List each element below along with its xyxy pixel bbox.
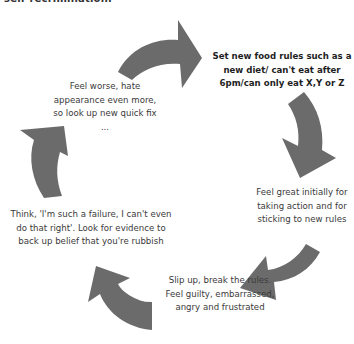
cycle-step-feel-great: Feel great initially for taking action a… [248,186,354,227]
cycle-step-feel-worse: Feel worse, hate appearance even more, s… [50,80,160,134]
curved-arrow-icon [88,266,152,330]
curved-arrow-icon [282,92,336,178]
cycle-step-think-failure: Think, 'I'm such a failure, I can't even… [6,208,176,249]
cycle-step-set-food-rules: Set new food rules such as a new diet/ c… [212,50,352,91]
curved-arrow-icon [118,20,202,88]
curved-arrow-icon [20,126,68,198]
cycle-step-slip-up: Slip up, break the rules. Feel guilty, e… [160,274,280,315]
